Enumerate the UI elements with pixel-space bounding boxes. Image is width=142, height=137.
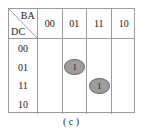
- column-header-2: 11: [87, 9, 112, 38]
- column-header-3: 10: [112, 9, 137, 38]
- minterm-marker-col11-row11: 1: [89, 78, 110, 94]
- row-header-1: 01: [9, 58, 37, 77]
- grid-column-11: [87, 39, 112, 114]
- row-header-3: 10: [9, 95, 37, 114]
- column-header-1: 01: [63, 9, 88, 38]
- row-header-column: 00 01 11 10: [9, 39, 38, 114]
- axis-corner-cell: BA DC: [9, 9, 38, 38]
- column-variable-label: BA: [21, 9, 35, 22]
- row-variable-label: DC: [11, 25, 25, 38]
- grid-column-01: [63, 39, 88, 114]
- karnaugh-map-header-row: BA DC 00 01 11 10: [9, 9, 134, 39]
- figure-caption: ( c ): [0, 116, 142, 127]
- grid-column-10: [112, 39, 137, 114]
- karnaugh-map-figure: BA DC 00 01 11 10 00 01 11 10 1 1 ( c ): [0, 0, 142, 137]
- karnaugh-map-body: 00 01 11 10 1 1: [9, 39, 134, 114]
- column-header-0: 00: [38, 9, 63, 38]
- karnaugh-map-table: BA DC 00 01 11 10 00 01 11 10 1 1: [8, 8, 135, 113]
- row-header-0: 00: [9, 39, 37, 58]
- row-header-2: 11: [9, 77, 37, 96]
- grid-column-00: [38, 39, 63, 114]
